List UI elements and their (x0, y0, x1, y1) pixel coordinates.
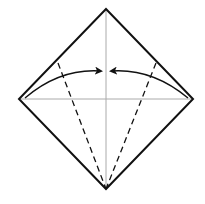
fold-diagram-svg (0, 0, 205, 204)
left-valley-fold (58, 63, 106, 189)
right-valley-fold (106, 63, 156, 189)
origami-diagram: Fold left and right edges to the center … (0, 0, 205, 204)
crease-lines (19, 9, 193, 189)
right-fold-arrow-icon (111, 71, 188, 98)
valley-fold-lines (58, 63, 156, 189)
